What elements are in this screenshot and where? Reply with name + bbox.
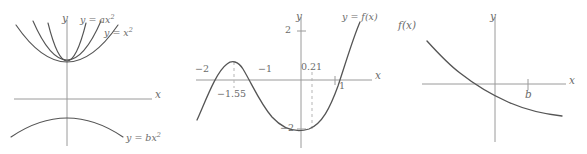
tick-label-b: b xyxy=(525,88,532,100)
x-axis-label: x xyxy=(155,88,161,100)
tick-label-x-1: 1 xyxy=(339,80,345,91)
curve-fx xyxy=(197,22,360,131)
y-axis-label: y xyxy=(296,10,302,22)
panel-polynomial: y x y = f(x) 2 −2 −2 −1 1 −1.55 0.21 xyxy=(196,0,392,154)
axes xyxy=(422,17,566,142)
curve-label-fx: f(x) xyxy=(398,19,416,31)
axes xyxy=(14,20,152,146)
curve-label-x2: y = x2 xyxy=(104,26,133,38)
decreasing-plot xyxy=(392,0,587,154)
annotation-local-min-x: 0.21 xyxy=(301,61,322,72)
x-axis-label: x xyxy=(569,74,575,86)
y-axis-label: y xyxy=(62,12,68,24)
tick-label-x-neg1: −1 xyxy=(258,63,272,74)
panel-parabola-family: y x y = ax2 y = x2 y = bx2 xyxy=(0,0,196,154)
figure-container: y x y = ax2 y = x2 y = bx2 y x y = f(x) … xyxy=(0,0,587,154)
x-axis-label: x xyxy=(375,69,381,81)
annotation-local-max-x: −1.55 xyxy=(217,88,246,99)
tick-label-y-neg2: −2 xyxy=(280,122,294,133)
y-axis-label: y xyxy=(490,10,496,22)
curve-label-ax2: y = ax2 xyxy=(80,13,115,25)
tick-label-x-neg2: −2 xyxy=(195,63,209,74)
tick-label-y-2: 2 xyxy=(285,24,291,35)
curve-label-fx: y = f(x) xyxy=(342,11,378,22)
panel-decreasing: y x f(x) b xyxy=(392,0,587,154)
curve-label-bx2: y = bx2 xyxy=(126,131,161,143)
